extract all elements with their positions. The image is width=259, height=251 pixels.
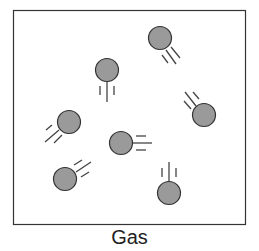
gas-particle bbox=[58, 111, 81, 134]
gas-particle bbox=[54, 168, 77, 191]
gas-diagram bbox=[0, 0, 259, 251]
gas-particle bbox=[193, 104, 216, 127]
diagram-caption: Gas bbox=[0, 226, 259, 249]
gas-particle bbox=[110, 132, 133, 155]
gas-particle bbox=[149, 27, 172, 50]
gas-particle bbox=[96, 59, 119, 82]
gas-particle bbox=[158, 182, 181, 205]
